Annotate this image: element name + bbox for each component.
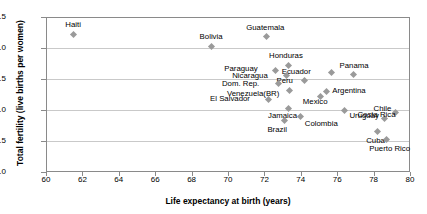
x-tick-label: 60 xyxy=(34,176,58,184)
y-tick-mark xyxy=(41,110,46,111)
data-point-label: Mexico xyxy=(303,98,328,106)
data-point-label: Puerto Rico xyxy=(369,145,410,153)
y-tick-mark xyxy=(41,48,46,49)
x-tick-label: 80 xyxy=(398,176,422,184)
y-tick-label: 1.5 xyxy=(0,137,6,145)
data-point-label: Uruguay xyxy=(349,112,378,120)
data-point-label: Bolivia xyxy=(200,33,223,41)
data-point-label: Haiti xyxy=(65,21,81,29)
x-tick-label: 66 xyxy=(143,176,167,184)
data-point-label: Brazil xyxy=(267,126,287,134)
gridline xyxy=(47,141,409,142)
y-axis-title: Total fertility (live births per women) xyxy=(15,3,25,183)
data-point-label: Colombia xyxy=(305,120,338,128)
x-tick-label: 78 xyxy=(362,176,386,184)
data-point-label: El Salvador xyxy=(210,95,250,103)
y-tick-mark xyxy=(41,141,46,142)
y-tick-mark xyxy=(41,79,46,80)
x-tick-label: 64 xyxy=(107,176,131,184)
data-point-label: Panama xyxy=(340,62,369,70)
y-tick-mark xyxy=(41,17,46,18)
y-tick-label: 2.0 xyxy=(0,106,6,114)
y-tick-label: 3.5 xyxy=(0,13,6,21)
x-tick-label: 70 xyxy=(216,176,240,184)
x-tick-label: 76 xyxy=(325,176,349,184)
x-tick-label: 74 xyxy=(289,176,313,184)
y-tick-label: 1.0 xyxy=(0,168,6,176)
data-point-label: Honduras xyxy=(269,52,303,60)
y-tick-label: 2.5 xyxy=(0,75,6,83)
x-tick-label: 72 xyxy=(252,176,276,184)
scatter-chart: Total fertility (live births per women) … xyxy=(0,0,427,214)
y-tick-label: 3.0 xyxy=(0,44,6,52)
x-axis-title: Life expectancy at birth (years) xyxy=(46,196,410,206)
x-tick-label: 62 xyxy=(70,176,94,184)
x-tick-label: 68 xyxy=(180,176,204,184)
data-point-label: Guatemala xyxy=(246,24,284,32)
data-point-label: Argentina xyxy=(332,87,365,95)
gridline xyxy=(47,48,409,49)
data-point-label: Dom. Rep. xyxy=(222,80,259,88)
